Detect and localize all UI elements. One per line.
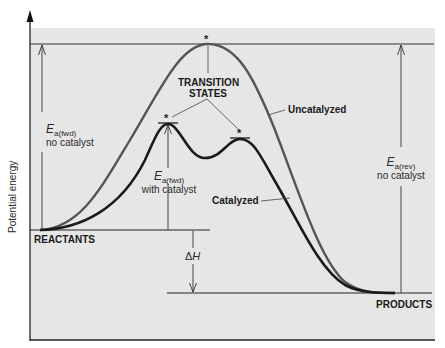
ea-subscript: a(fwd) bbox=[54, 129, 76, 138]
ea-caption: no catalyst bbox=[46, 138, 94, 148]
ea-symbol: E bbox=[46, 122, 54, 136]
transition-states-line1: TRANSITION bbox=[178, 78, 238, 88]
products-label: PRODUCTS bbox=[376, 300, 432, 310]
delta-h-italic: H bbox=[192, 250, 200, 262]
ea-symbol: E bbox=[154, 169, 162, 183]
ts-marker-catalyzed-2: * bbox=[237, 128, 241, 139]
y-axis-arrow-icon bbox=[27, 10, 34, 22]
ts-marker-catalyzed-1: * bbox=[164, 113, 168, 124]
transition-states-line2: STATES bbox=[178, 89, 238, 99]
ts-marker-uncatalyzed: * bbox=[204, 34, 208, 45]
ea-symbol: E bbox=[387, 155, 395, 169]
ea-rev-no-catalyst-label: Ea(rev) no catalyst bbox=[368, 156, 434, 181]
ea-fwd-with-catalyst-label: Ea(fwd) with catalyst bbox=[133, 170, 205, 195]
y-axis-label: Potential energy bbox=[7, 161, 18, 233]
delta-h-label: ΔH bbox=[185, 251, 200, 262]
ea-subscript: a(rev) bbox=[395, 162, 416, 171]
ea-fwd-no-catalyst-label: Ea(fwd) no catalyst bbox=[46, 123, 94, 148]
reactants-label: REACTANTS bbox=[34, 235, 95, 245]
catalyzed-label: Catalyzed bbox=[212, 196, 259, 206]
ea-subscript: a(fwd) bbox=[162, 176, 184, 185]
transition-states-label: TRANSITION STATES bbox=[178, 78, 238, 99]
uncatalyzed-label: Uncatalyzed bbox=[288, 105, 346, 115]
ea-caption: with catalyst bbox=[133, 185, 205, 195]
ea-caption: no catalyst bbox=[368, 171, 434, 181]
